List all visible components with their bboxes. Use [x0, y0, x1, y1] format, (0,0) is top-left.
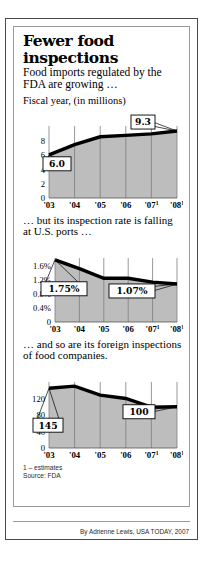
- x-tick-label: '05: [98, 324, 110, 334]
- infographic-content: Fewer food inspections Food imports regu…: [23, 32, 183, 480]
- x-tick-label: '081: [170, 323, 183, 333]
- y-tick-label: 8: [41, 135, 45, 145]
- x-tick-label: '03: [43, 450, 55, 460]
- chart-1-axis-title: Fiscal year, (in millions): [23, 95, 183, 107]
- bridge-text-3: … and so are its foreign inspections of …: [23, 339, 183, 362]
- bridge-text-2: … but its inspection rate is falling at …: [23, 215, 183, 238]
- x-tick-label: '081: [170, 199, 183, 209]
- chart-2-svg: 00.4%0.8%1.2%1.6%'03'04'05'06'071'0811.7…: [23, 240, 183, 335]
- chart-3-foreign-inspections: 04080120'03'04'05'06'071'081145100: [23, 364, 183, 461]
- callout-value: 1.07%: [116, 285, 147, 296]
- footnote-source: Source: FDA: [23, 472, 183, 480]
- chart-2-inspection-rate: 00.4%0.8%1.2%1.6%'03'04'05'06'071'0811.7…: [23, 240, 183, 335]
- x-tick-label: '03: [43, 200, 55, 210]
- callout-value: 100: [129, 406, 148, 417]
- x-tick-label: '04: [74, 324, 86, 334]
- callout-value: 6.0: [49, 158, 65, 169]
- credit-line: By Adrienne Lewis, USA TODAY, 2007: [80, 528, 189, 535]
- chart-1-svg: 02468'03'04'05'06'071'0816.09.3: [23, 108, 183, 211]
- callout-value: 9.3: [135, 116, 151, 127]
- x-tick-label: '071: [144, 199, 158, 209]
- chart-3-svg: 04080120'03'04'05'06'071'081145100: [23, 364, 183, 461]
- footnote-estimates: 1 – estimates: [23, 464, 183, 472]
- x-tick-label: '04: [69, 200, 81, 210]
- y-tick-label: 120: [32, 394, 45, 404]
- x-tick-label: '081: [170, 450, 183, 460]
- infographic-frame-outer: Fewer food inspections Food imports regu…: [5, 18, 198, 540]
- x-tick-label: '071: [144, 450, 158, 460]
- x-tick-label: '05: [95, 200, 107, 210]
- x-tick-label: '03: [49, 324, 61, 334]
- footnotes: 1 – estimates Source: FDA: [23, 464, 183, 480]
- callout-value: 145: [38, 420, 57, 431]
- chart-1-food-imports: 02468'03'04'05'06'071'0816.09.3: [23, 108, 183, 211]
- x-tick-label: '05: [95, 450, 107, 460]
- credit-divider: [13, 521, 190, 522]
- x-tick-label: '06: [123, 324, 135, 334]
- x-tick-label: '06: [120, 200, 132, 210]
- x-tick-label: '06: [120, 450, 132, 460]
- deck-text: Food imports regulated by the FDA are gr…: [23, 67, 183, 91]
- y-tick-label: 0.4%: [33, 303, 51, 313]
- callout-value: 1.75%: [48, 283, 79, 294]
- x-tick-label: '04: [69, 450, 81, 460]
- y-tick-label: 2: [41, 179, 45, 189]
- x-tick-label: '071: [146, 323, 160, 333]
- page-title: Fewer food inspections: [23, 32, 183, 66]
- infographic-frame-inner: Fewer food inspections Food imports regu…: [13, 26, 190, 507]
- y-tick-label: 1.6%: [33, 260, 51, 270]
